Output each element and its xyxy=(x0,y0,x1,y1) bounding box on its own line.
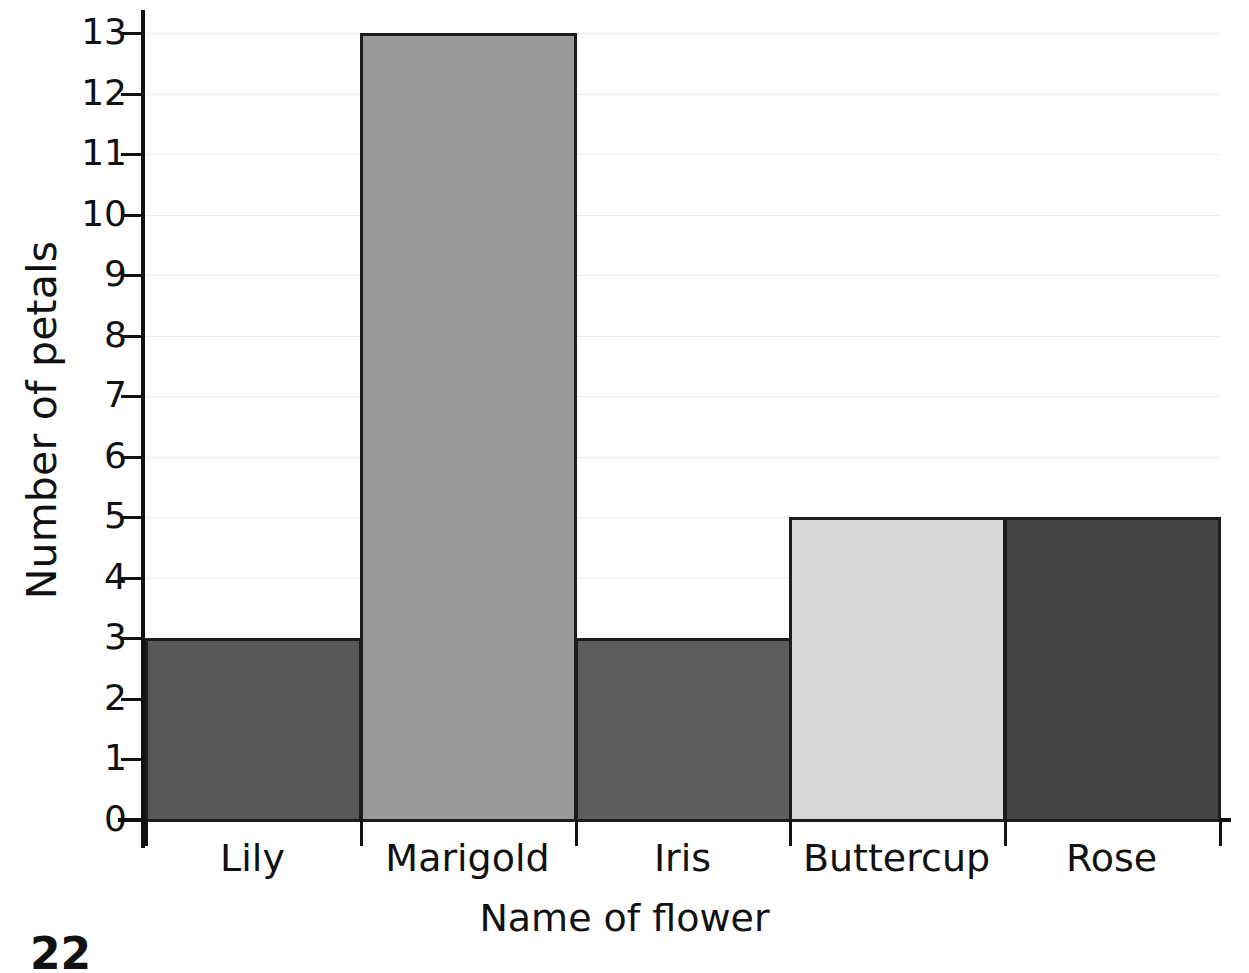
x-tick-label-marigold: Marigold xyxy=(360,836,575,880)
y-tick-label-9: 9 xyxy=(7,256,127,292)
y-tick-label-2: 2 xyxy=(7,680,127,716)
y-tick-label-5: 5 xyxy=(7,498,127,534)
gridline-9 xyxy=(145,275,1219,276)
bar-iris xyxy=(575,638,792,822)
gridline-6 xyxy=(145,457,1219,458)
gridline-11 xyxy=(145,154,1219,155)
x-tick-label-rose: Rose xyxy=(1004,836,1219,880)
x-tick-label-iris: Iris xyxy=(575,836,790,880)
x-tick-label-buttercup: Buttercup xyxy=(789,836,1004,880)
y-tick-label-6: 6 xyxy=(7,438,127,474)
y-tick-label-11: 11 xyxy=(7,135,127,171)
gridline-7 xyxy=(145,396,1219,397)
y-tick-label-10: 10 xyxy=(7,196,127,232)
gridline-13 xyxy=(145,33,1219,34)
y-tick-label-8: 8 xyxy=(7,317,127,353)
page-number: 22 xyxy=(30,932,91,973)
y-tick-label-13: 13 xyxy=(7,14,127,50)
y-tick-label-7: 7 xyxy=(7,377,127,413)
bar-rose xyxy=(1004,517,1221,822)
x-tick-5 xyxy=(1219,820,1222,846)
bar-lily xyxy=(145,638,362,822)
gridline-8 xyxy=(145,336,1219,337)
x-axis-title: Name of flower xyxy=(0,896,1249,940)
bar-marigold xyxy=(360,33,577,822)
y-tick-label-0: 0 xyxy=(7,801,127,837)
gridline-12 xyxy=(145,94,1219,95)
gridline-10 xyxy=(145,215,1219,216)
bar-buttercup xyxy=(789,517,1006,822)
y-tick-label-12: 12 xyxy=(7,75,127,111)
y-tick-label-4: 4 xyxy=(7,559,127,595)
x-tick-label-lily: Lily xyxy=(145,836,360,880)
y-tick-label-1: 1 xyxy=(7,740,127,776)
y-tick-label-3: 3 xyxy=(7,619,127,655)
